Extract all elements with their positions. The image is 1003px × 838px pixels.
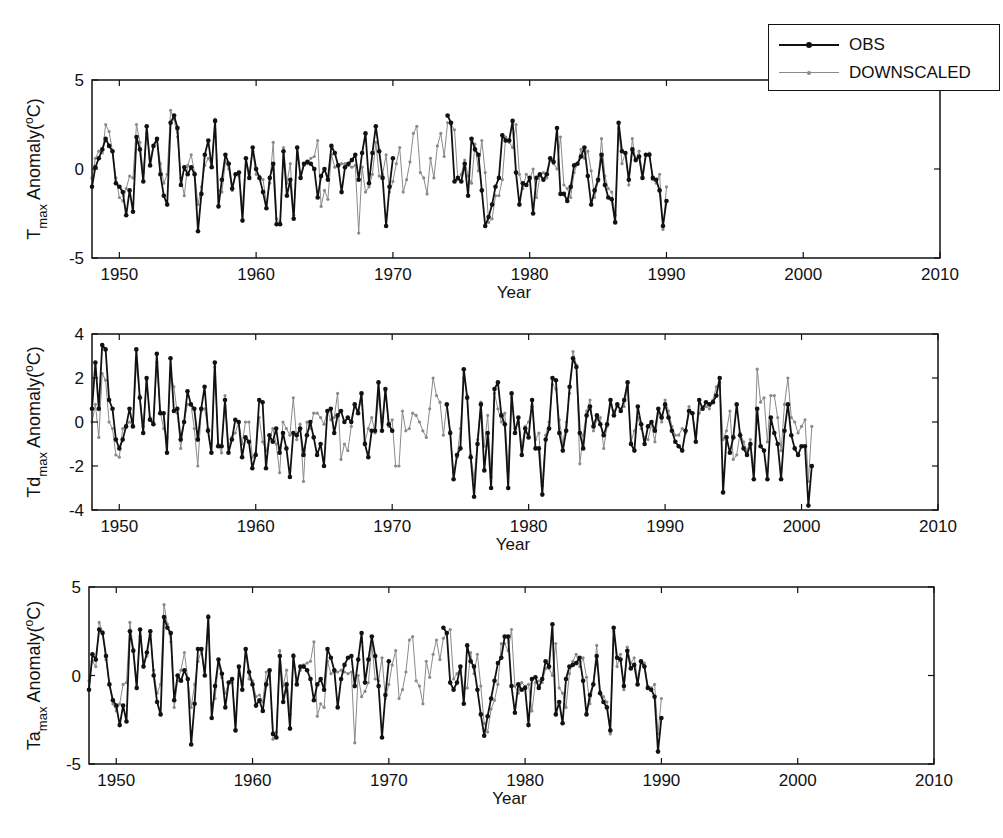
x-tick-label: 1960 xyxy=(237,517,275,536)
legend-entry-downscaled: DOWNSCALED xyxy=(769,59,999,87)
y-tick-label: 5 xyxy=(72,578,81,597)
x-tick-label: 2010 xyxy=(921,265,959,284)
panel-1: 1950196019701980199020002010-505YearTmax… xyxy=(22,71,959,302)
x-tick-label: 2010 xyxy=(919,517,957,536)
x-tick-label: 1950 xyxy=(97,771,135,790)
obs-marker-icon xyxy=(806,42,812,48)
legend-label-obs: OBS xyxy=(849,35,885,55)
y-axis-label: Tamax Anomaly(oC) xyxy=(22,601,50,750)
x-tick-label: 1970 xyxy=(374,265,412,284)
y-tick-label: 5 xyxy=(75,71,84,90)
x-tick-label: 2000 xyxy=(784,265,822,284)
x-tick-label: 2000 xyxy=(779,771,817,790)
x-tick-label: 1980 xyxy=(511,265,549,284)
x-tick-label: 2000 xyxy=(783,517,821,536)
x-tick-label: 1990 xyxy=(648,265,686,284)
figure: 1950196019701980199020002010-505YearTmax… xyxy=(0,0,1003,838)
downscaled-marker-icon xyxy=(807,71,811,75)
y-axis-label: Tmax Anomaly(oC) xyxy=(22,98,50,239)
y-tick-label: -2 xyxy=(69,457,84,476)
x-tick-label: 1970 xyxy=(373,517,411,536)
x-axis-label: Year xyxy=(492,789,527,808)
y-tick-label: 4 xyxy=(75,325,84,344)
y-tick-label: -5 xyxy=(66,755,81,774)
y-tick-label: 0 xyxy=(72,667,81,686)
x-tick-label: 2010 xyxy=(915,771,953,790)
series-obs xyxy=(87,615,664,754)
x-tick-label: 1990 xyxy=(646,517,684,536)
panel-2: 1950196019701980199020002010-4-2024YearT… xyxy=(22,325,957,554)
x-tick-label: 1960 xyxy=(237,265,275,284)
y-axis-label: Tdmax Anomaly(oC) xyxy=(22,346,50,497)
x-axis-label: Year xyxy=(496,535,531,554)
x-tick-label: 1960 xyxy=(234,771,272,790)
y-tick-label: -5 xyxy=(69,249,84,268)
x-axis-label: Year xyxy=(497,283,532,302)
x-tick-label: 1980 xyxy=(510,517,548,536)
x-tick-label: 1950 xyxy=(100,517,138,536)
downscaled-line-sample-icon xyxy=(779,72,839,73)
x-tick-label: 1950 xyxy=(100,265,138,284)
panel-3: 1950196019701980199020002010-505YearTama… xyxy=(22,578,953,808)
y-tick-label: 0 xyxy=(75,413,84,432)
legend-label-downscaled: DOWNSCALED xyxy=(849,63,971,83)
y-tick-label: 0 xyxy=(75,160,84,179)
y-tick-label: -4 xyxy=(69,501,84,520)
obs-line-sample-icon xyxy=(779,44,839,46)
y-tick-label: 2 xyxy=(75,369,84,388)
x-tick-label: 1990 xyxy=(643,771,681,790)
chart-canvas: 1950196019701980199020002010-505YearTmax… xyxy=(0,0,1003,838)
x-tick-label: 1970 xyxy=(370,771,408,790)
x-tick-label: 1980 xyxy=(506,771,544,790)
legend: OBS DOWNSCALED xyxy=(768,24,1000,91)
legend-entry-obs: OBS xyxy=(769,31,999,59)
series-obs xyxy=(90,343,814,508)
